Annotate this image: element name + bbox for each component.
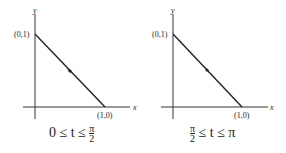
x-axis-label: x — [269, 103, 274, 112]
direction-arrow-icon — [68, 69, 71, 72]
fraction-denominator: 2 — [89, 134, 94, 143]
point-label-end: (1,0) — [97, 111, 113, 120]
graph-left: y x (0,1) (1,0) — [14, 6, 137, 120]
fraction-denominator: 2 — [190, 134, 195, 143]
point-label-end: (1,0) — [234, 111, 250, 120]
y-axis-label: y — [32, 6, 37, 15]
caption-text: ≤ t ≤ π — [199, 125, 236, 140]
y-axis-label: y — [170, 6, 175, 15]
graph-right: y x (0,1) (1,0) — [152, 6, 274, 120]
point-label-start: (0,1) — [14, 30, 30, 39]
caption-left: 0 ≤ t ≤ π2 — [49, 124, 94, 143]
fraction: π2 — [190, 124, 195, 143]
fraction: π2 — [89, 124, 94, 143]
direction-arrow-icon — [205, 68, 208, 71]
parametric-graphs: y x (0,1) (1,0) y x (0,1) (1,0) — [0, 0, 286, 153]
caption-right: π2 ≤ t ≤ π — [190, 124, 235, 143]
caption-text: 0 ≤ t ≤ — [49, 125, 86, 140]
point-label-start: (0,1) — [152, 30, 168, 39]
x-axis-label: x — [132, 103, 137, 112]
